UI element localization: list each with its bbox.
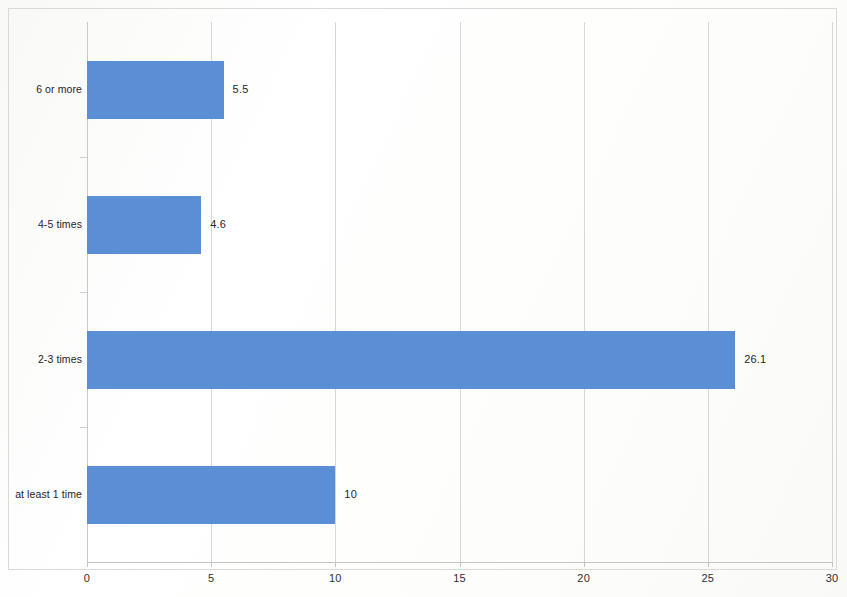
- bar: [87, 61, 224, 119]
- category-axis-tick-mark: [80, 427, 87, 428]
- bar: [87, 196, 201, 254]
- x-axis-line: [87, 562, 833, 563]
- category-axis-label: 2-3 times: [38, 353, 82, 365]
- plot-area: [87, 22, 832, 562]
- x-axis-tick-label: 25: [702, 572, 715, 584]
- x-axis-tick-label: 15: [453, 572, 466, 584]
- x-gridline: [832, 22, 833, 562]
- x-gridline: [335, 22, 336, 562]
- category-axis-tick-mark: [80, 292, 87, 293]
- x-axis-tick-label: 0: [84, 572, 90, 584]
- bar-value-label: 5.5: [233, 83, 249, 95]
- x-gridline: [460, 22, 461, 562]
- x-gridline: [584, 22, 585, 562]
- x-axis-tick-label: 20: [577, 572, 590, 584]
- category-axis-label: 4-5 times: [38, 218, 82, 230]
- category-axis-tick-mark: [80, 157, 87, 158]
- bar-value-label: 10: [344, 488, 357, 500]
- category-axis-label: 6 or more: [36, 83, 82, 95]
- x-axis-tick-label: 30: [826, 572, 839, 584]
- x-gridline: [708, 22, 709, 562]
- bar-value-label: 26.1: [744, 353, 766, 365]
- bar-value-label: 4.6: [210, 218, 226, 230]
- bar: [87, 331, 735, 389]
- chart-screenshot: 0510152025305.56 or more4.64-5 times26.1…: [0, 0, 847, 597]
- x-axis-tick-label: 5: [208, 572, 214, 584]
- x-axis-tick-label: 10: [329, 572, 342, 584]
- bar: [87, 466, 335, 524]
- category-axis-label: at least 1 time: [15, 488, 82, 500]
